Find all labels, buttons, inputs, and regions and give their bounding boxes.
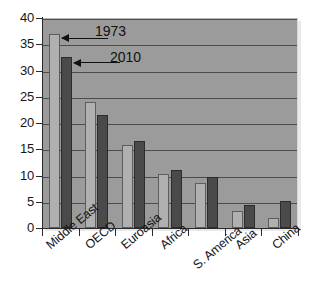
bar-2010-euroasia bbox=[134, 141, 145, 228]
bar-1973-china bbox=[268, 218, 279, 229]
y-axis-tick-label: 20 bbox=[20, 116, 34, 129]
bar-1973-middle-east bbox=[49, 34, 60, 228]
bar-2010-asia bbox=[244, 205, 255, 228]
x-axis-tick bbox=[261, 229, 262, 236]
y-axis-tick-label: 15 bbox=[20, 142, 34, 155]
y-axis-tick-label: 25 bbox=[20, 90, 34, 103]
y-axis-tick-label: 10 bbox=[20, 169, 34, 182]
bar-2010-middle-east bbox=[61, 57, 72, 228]
annotation-label-1973: 1973 bbox=[95, 24, 126, 38]
y-axis-tick-label: 5 bbox=[27, 195, 34, 208]
y-axis-tick-label: 0 bbox=[27, 221, 34, 234]
bars-layer bbox=[42, 18, 298, 228]
x-axis-tick bbox=[42, 229, 43, 236]
bar-1973-euroasia bbox=[122, 145, 133, 228]
bar-2010-africa bbox=[171, 170, 182, 228]
bar-chart: 0510152025303540 19732010 Middle EastOEC… bbox=[0, 0, 315, 304]
x-axis-tick bbox=[79, 229, 80, 236]
annotation-label-2010: 2010 bbox=[110, 50, 141, 64]
bar-2010-s-america bbox=[207, 177, 218, 228]
bar-1973-s-america bbox=[195, 183, 206, 228]
y-axis-tick-label: 30 bbox=[20, 64, 34, 77]
x-axis-label-s-america: S. America bbox=[191, 224, 244, 271]
y-axis-tick-label: 35 bbox=[20, 37, 34, 50]
y-axis-tick-label: 40 bbox=[20, 11, 34, 24]
